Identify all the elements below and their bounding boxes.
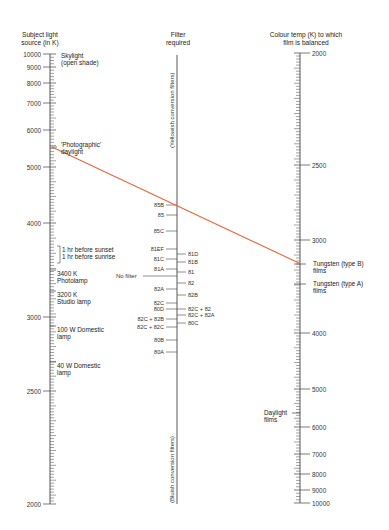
left-tick-label: 7000 [0,100,41,107]
note-skylight: Skylight (open shade) [61,52,99,67]
note-line: daylight [61,148,101,155]
left-tick-label: 2500 [0,388,41,395]
note-line: Photolamp [57,277,88,284]
left-tick-label: 2000 [0,501,41,508]
left-tick-label: 8000 [0,80,41,87]
note-line: 1 hr before sunrise [62,253,115,260]
right-tick-label: 8000 [312,471,326,478]
filter-label-left: 82C + 82B [100,316,164,322]
filter-label-right: 82C + 82A [188,312,215,318]
left-tick-label: 6000 [0,127,41,134]
note-40w-domestic: 40 W Domestic lamp [57,362,100,377]
left-tick-label: 4000 [0,220,41,227]
right-tick-label: 5000 [312,386,326,393]
left-tick-label: 3000 [0,314,41,321]
note-sunset-sunrise: 1 hr before sunset 1 hr before sunrise [62,246,115,261]
right-tick-label: 9000 [312,487,326,494]
no-filter-label: No filter [116,273,137,279]
filter-label-left: 82A [100,286,164,292]
note-line: Studio lamp [57,298,91,305]
filter-label-left: 85 [100,212,164,218]
note-line: Skylight [61,52,99,59]
right-tick-label: 3000 [312,237,326,244]
note-line: films [313,267,364,274]
left-tick-label: 5000 [0,164,41,171]
right-tick-label: 4000 [312,330,326,337]
note-tungsten-type-a: Tungsten (type A) films [313,280,363,295]
bluish-filters-note: (Bluish conversion filters) [169,436,175,503]
note-line: lamp [57,369,100,376]
note-studio-lamp: 3200 K Studio lamp [57,291,91,306]
filter-label-left: 80D [100,306,164,312]
filter-label-left: 82C + 82C [100,324,164,330]
filter-label-left: 80A [100,349,164,355]
note-line: 40 W Domestic [57,362,100,369]
filter-label-right: 80C [188,320,198,326]
note-line: Daylight [264,409,287,416]
note-line: 1 hr before sunset [62,246,115,253]
filter-label-right: 82 [188,280,194,286]
note-100w-domestic: 100 W Domestic lamp [57,326,104,341]
right-tick-label: 2000 [312,50,326,57]
filter-label-left: 85B [100,202,164,208]
filter-label-left: 85C [100,228,164,234]
note-line: 100 W Domestic [57,326,104,333]
right-tick-label: 2500 [312,162,326,169]
note-photographic-daylight: 'Photographic' daylight [61,141,101,156]
filter-label-left: 81A [100,266,164,272]
note-line: films [264,416,287,423]
note-line: Tungsten (type B) [313,260,364,267]
middle-scale [143,55,186,504]
left-scale [43,54,57,504]
filter-label-right: 81D [188,251,198,257]
filter-label-right: 81 [188,269,194,275]
note-daylight-films: Daylight films [264,409,287,424]
filter-label-right: 82B [188,292,198,298]
note-tungsten-type-b: Tungsten (type B) films [313,260,364,275]
left-tick-label: 9000 [0,64,41,71]
left-tick-label: 10000 [0,51,41,58]
filter-label-left: 80B [100,337,164,343]
note-line: films [313,287,363,294]
sunset-bracket [57,246,60,263]
yellowish-filters-note: (Yellowish conversion filters) [169,73,175,148]
note-line: 'Photographic' [61,141,101,148]
note-line: lamp [57,333,104,340]
right-tick-label: 10000 [312,500,330,507]
right-tick-label: 6000 [312,424,326,431]
right-scale [292,53,310,503]
note-line: (open shade) [61,59,99,66]
note-photolamp: 3400 K Photolamp [57,270,88,285]
filter-label-right: 81B [188,259,198,265]
note-line: 3400 K [57,270,88,277]
note-line: Tungsten (type A) [313,280,363,287]
note-line: 3200 K [57,291,91,298]
right-tick-label: 7000 [312,451,326,458]
